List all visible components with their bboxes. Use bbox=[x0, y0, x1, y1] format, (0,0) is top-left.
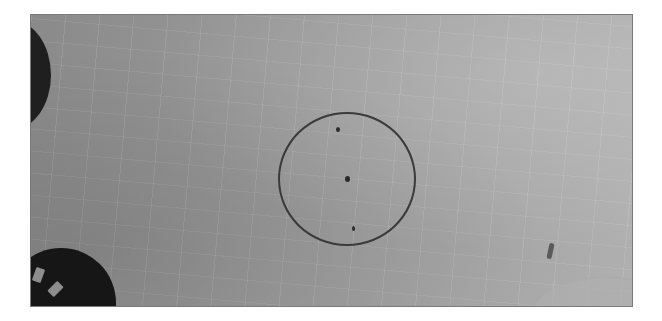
dot-bottom bbox=[352, 226, 355, 231]
photo bbox=[31, 15, 632, 306]
dot-top bbox=[336, 127, 340, 132]
dot-center bbox=[345, 176, 350, 182]
dial-marker bbox=[47, 281, 63, 297]
dial-marker bbox=[32, 267, 45, 283]
